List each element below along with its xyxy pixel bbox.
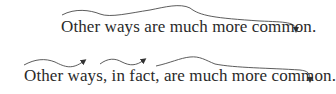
example-sentence-1: Other ways are much more common. — [61, 17, 316, 37]
flow-arc-icon — [100, 59, 144, 65]
example-sentence-2: Other ways, in fact, are much more commo… — [24, 66, 336, 86]
